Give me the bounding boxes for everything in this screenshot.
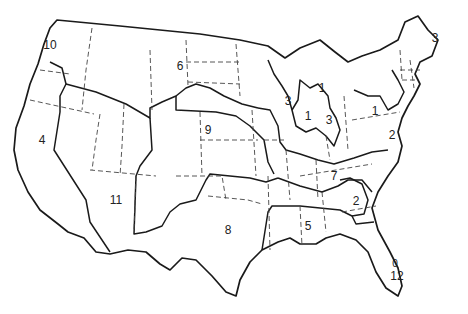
region-label-10: 10	[43, 39, 56, 51]
region-boundary-northwest	[66, 84, 258, 118]
region-label-6: 6	[177, 60, 184, 72]
region-label-2-east: 2	[389, 129, 396, 141]
region-label-3-me: 3	[432, 32, 439, 44]
region-boundary-mi	[292, 80, 340, 146]
region-boundary-south	[278, 178, 372, 192]
region-label-9: 9	[205, 124, 212, 136]
region-label-1-mi: 1	[305, 110, 312, 122]
region-boundary-northeast	[354, 70, 404, 110]
region-label-5: 5	[305, 220, 312, 232]
region-marker-12: 0	[392, 259, 398, 269]
region-label-12: 12	[390, 270, 403, 282]
region-label-1-east: 1	[372, 105, 379, 117]
region-label-1-ohio: 1	[319, 82, 326, 94]
region-label-8: 8	[225, 224, 232, 236]
us-region-map: 10 4 6 9 11 8 5 2 12 0 7 2 1 3 1 3 1 3	[0, 0, 468, 314]
region-boundary-west	[50, 62, 110, 252]
us-outline	[14, 16, 438, 296]
region-label-2-south: 2	[353, 195, 360, 207]
region-boundary-midwest	[258, 108, 388, 164]
region-label-7: 7	[331, 170, 338, 182]
region-label-4: 4	[39, 134, 46, 146]
region-label-11: 11	[110, 194, 122, 206]
region-label-3-wi: 3	[285, 95, 292, 107]
region-label-3-mi: 3	[326, 114, 333, 126]
